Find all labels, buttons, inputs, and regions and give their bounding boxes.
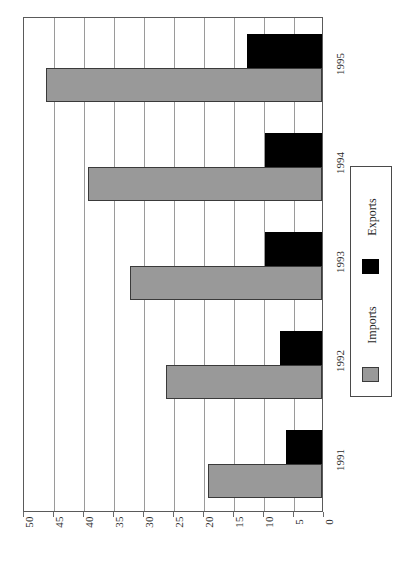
category-label-text: 1991: [334, 449, 346, 471]
value-tick-label: 30: [143, 516, 155, 527]
value-tick-label: 20: [203, 516, 215, 527]
bar-imports-1991: [208, 464, 322, 498]
value-axis: 50454035302520151050: [23, 512, 323, 554]
legend-swatch-imports: [362, 367, 379, 382]
legend-swatch-exports: [362, 259, 379, 274]
value-tick-label: 10: [263, 516, 275, 527]
legend: ExportsImports: [350, 166, 392, 397]
category-label-text: 1992: [334, 350, 346, 372]
bar-group-1992: [24, 117, 322, 216]
bar-imports-1992: [166, 365, 322, 399]
bar-group-1995: [24, 414, 322, 513]
value-tick-label: 0: [323, 519, 335, 525]
bar-exports-1993: [265, 232, 322, 266]
category-label-text: 1995: [334, 53, 346, 75]
plot-area: [23, 17, 323, 512]
value-tick-label: 25: [173, 516, 185, 527]
bar-exports-1991: [286, 430, 322, 464]
value-tick-label: 5: [293, 519, 305, 525]
tick-mark: [323, 512, 324, 517]
bar-imports-1995: [46, 68, 322, 102]
legend-entry-exports[interactable]: Exports: [351, 183, 393, 283]
category-label-text: 1994: [334, 152, 346, 174]
category-label-1991: 1991: [327, 454, 353, 466]
category-label-1995: 1995: [327, 58, 353, 70]
bar-group-1993: [24, 216, 322, 315]
value-tick-label: 40: [83, 516, 95, 527]
bar-exports-1994: [265, 133, 322, 167]
bar-imports-1994: [88, 167, 322, 201]
value-tick-label: 50: [23, 516, 35, 527]
tick-mark: [293, 512, 294, 517]
bar-imports-1993: [130, 266, 322, 300]
value-tick-label: 35: [113, 516, 125, 527]
category-label-text: 1993: [334, 251, 346, 273]
bar-group-1994: [24, 315, 322, 414]
bar-exports-1992: [280, 331, 322, 365]
bar-group-1991: [24, 18, 322, 117]
bar-chart: 50454035302520151050 1991199219931994199…: [0, 0, 401, 570]
bar-exports-1995: [247, 34, 322, 68]
value-tick-label: 45: [53, 516, 65, 527]
legend-label-text: Exports: [365, 198, 380, 235]
value-tick-label: 15: [233, 516, 245, 527]
legend-label-text: Imports: [365, 306, 380, 343]
legend-entry-imports[interactable]: Imports: [351, 291, 393, 391]
